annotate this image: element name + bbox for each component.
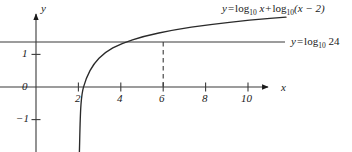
curve-eq-base2: 10 (287, 8, 295, 17)
curve-equation-label: y=log10 x+log10(x − 2) (222, 3, 325, 14)
curve-eq-log2: log (273, 2, 287, 14)
line-eq-arg: 24 (328, 35, 339, 47)
x-tick-label-10: 10 (241, 93, 252, 104)
curve-eq-arg2: (x − 2) (294, 2, 325, 14)
y-axis-label: y (41, 3, 46, 14)
curve-eq-log1: log (235, 2, 249, 14)
line-eq-base: 10 (318, 41, 326, 50)
line-eq-log: log (304, 35, 318, 47)
log-equation-graph-figure: x y 1 0 −1 2 4 6 8 10 y=log10 x+log10(x … (0, 0, 352, 152)
x-axis-label: x (281, 82, 286, 93)
x-tick-label-6: 6 (159, 93, 165, 104)
y-tick-label-1: 1 (22, 48, 28, 59)
curve-eq-equals: = (227, 2, 235, 14)
plot-canvas (0, 0, 352, 152)
curve-eq-plus: + (264, 2, 272, 14)
line-eq-equals: = (296, 35, 304, 47)
y-tick-label-0: 0 (22, 81, 28, 92)
line-equation-label: y=log10 24 (291, 36, 339, 47)
x-tick-label-4: 4 (117, 93, 123, 104)
x-tick-label-8: 8 (202, 93, 208, 104)
curve-eq-base1: 10 (249, 8, 257, 17)
log-sum-curve (79, 17, 286, 152)
y-tick-label-minus-1: −1 (16, 113, 29, 124)
x-tick-label-2: 2 (75, 93, 81, 104)
